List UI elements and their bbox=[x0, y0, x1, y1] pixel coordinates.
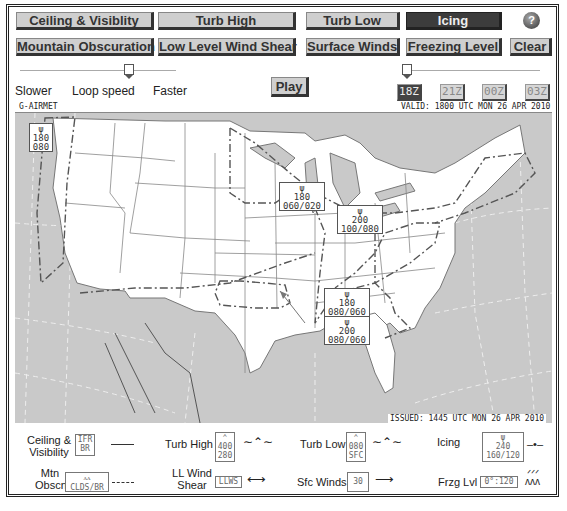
turbulence-icon: ⌃ bbox=[216, 433, 234, 442]
time-00z-button[interactable]: 00Z bbox=[482, 84, 507, 101]
legend-ceiling-label: Ceiling &Visibility bbox=[24, 434, 74, 458]
faster-label: Faster bbox=[153, 84, 187, 98]
play-button[interactable]: Play bbox=[271, 77, 309, 97]
icing-stamp[interactable]: ψ 180 080 bbox=[29, 123, 53, 152]
turb-high-line-icon: ∼⌃∼ bbox=[243, 436, 273, 448]
icing-stamp[interactable]: ψ 200 080/060 bbox=[324, 316, 370, 345]
legend-frzg-label: Frzg Lvl bbox=[438, 476, 477, 488]
icing-icon: ψ bbox=[483, 433, 523, 442]
time-slider[interactable] bbox=[408, 70, 540, 71]
valid-time: VALID: 1800 UTC MON 26 APR 2010 bbox=[401, 102, 550, 111]
legend-turb-low-box: ⌃080SFC bbox=[346, 432, 366, 462]
solid-line-icon bbox=[111, 444, 134, 445]
turb-low-button[interactable]: Turb Low bbox=[306, 12, 400, 30]
legend-ceiling-box: IFRBR bbox=[75, 434, 95, 456]
mountain-icon: ᴧᴧ bbox=[66, 473, 108, 483]
loop-speed-thumb[interactable] bbox=[124, 64, 134, 75]
legend-llws-label: LL WindShear bbox=[167, 467, 217, 491]
freezing-level-button[interactable]: Freezing Level bbox=[406, 38, 502, 56]
legend-icing-box: ψ240160/120 bbox=[482, 432, 524, 462]
loop-speed-slider[interactable] bbox=[20, 70, 176, 71]
icing-button[interactable]: Icing bbox=[406, 12, 502, 30]
clear-button[interactable]: Clear bbox=[510, 38, 552, 56]
time-18z-button[interactable]: 18Z bbox=[397, 84, 422, 101]
dashed-line-icon bbox=[112, 482, 134, 483]
legend: Ceiling &Visibility IFRBR Turb High ⌃400… bbox=[15, 422, 552, 494]
us-map-graphic bbox=[15, 113, 552, 423]
time-03z-button[interactable]: 03Z bbox=[525, 84, 550, 101]
legend-turb-high-box: ⌃400280 bbox=[215, 432, 235, 462]
legend-turb-high-label: Turb High bbox=[165, 438, 213, 450]
freezing-level-line-icon: ᐟᐟᐟʌʌʌ bbox=[525, 470, 540, 486]
surface-winds-button[interactable]: Surface Winds bbox=[306, 38, 400, 56]
mountain-obscuration-button[interactable]: Mountain Obscuration bbox=[16, 38, 154, 56]
legend-icing-label: Icing bbox=[437, 436, 460, 448]
loop-speed-label: Loop speed bbox=[72, 84, 135, 98]
icing-stamp[interactable]: ψ 180 060/020 bbox=[279, 182, 325, 211]
legend-llws-box: LLWS bbox=[215, 476, 242, 488]
time-slider-thumb[interactable] bbox=[402, 64, 412, 75]
airmet-map[interactable]: ψ 180 080 ψ 180 060/020 ψ 200 100/080 ψ … bbox=[15, 112, 552, 423]
product-label: G-AIRMET bbox=[19, 102, 58, 111]
legend-mtn-label: MtnObscn bbox=[35, 467, 65, 491]
legend-mtn-box: ᴧᴧCLDS/BR bbox=[65, 472, 109, 492]
icing-line-icon: –•– bbox=[527, 438, 543, 450]
time-21z-button[interactable]: 21Z bbox=[440, 84, 465, 101]
legend-turb-low-label: Turb Low bbox=[300, 438, 345, 450]
icing-stamp[interactable]: ψ 200 100/080 bbox=[337, 205, 383, 234]
legend-sfc-winds-box: 30 bbox=[347, 472, 369, 492]
icing-stamp[interactable]: ψ 180 080/060 bbox=[324, 288, 370, 317]
legend-sfc-winds-label: Sfc Winds bbox=[297, 476, 347, 488]
turbulence-icon: ⌃ bbox=[347, 433, 365, 442]
ceiling-visibility-button[interactable]: Ceiling & Visiblity bbox=[16, 12, 154, 30]
help-icon[interactable]: ? bbox=[523, 12, 540, 29]
turb-low-line-icon: ∼⌃∼ bbox=[372, 436, 402, 448]
double-arrow-icon: ⟷ bbox=[247, 474, 266, 486]
low-level-wind-shear-button[interactable]: Low Level Wind Shear bbox=[158, 38, 296, 56]
right-arrow-icon: ⟶ bbox=[375, 474, 394, 486]
legend-frzg-box: 0°:120 bbox=[480, 476, 518, 488]
turb-high-button[interactable]: Turb High bbox=[158, 12, 296, 30]
slower-label: Slower bbox=[15, 84, 52, 98]
